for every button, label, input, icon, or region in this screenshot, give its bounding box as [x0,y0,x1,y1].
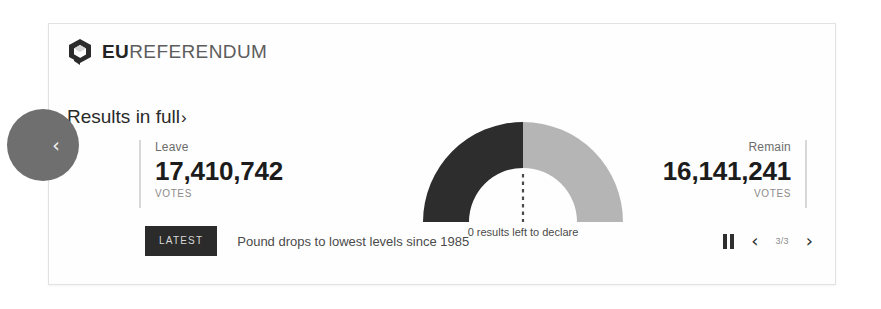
playback-controls: ‹ 3/3 › [723,232,813,250]
remain-label: Remain [663,140,791,155]
remain-stat-block: Remain 16,141,241 VOTES [663,140,807,208]
remain-votes-unit: VOTES [663,187,791,201]
pause-icon[interactable] [723,234,734,249]
chevron-right-icon: › [181,108,187,128]
gauge-segment-leave [423,122,523,222]
half-donut-chart [417,122,629,226]
leave-votes-unit: VOTES [155,187,283,201]
next-story-icon[interactable]: › [806,232,813,250]
footer-ticker-bar: LATEST Pound drops to lowest levels sinc… [49,224,835,258]
brand-title-eu: EU [102,41,129,62]
chevron-left-icon: ‹ [52,134,60,156]
latest-badge[interactable]: LATEST [145,226,217,256]
ticker-headline[interactable]: Pound drops to lowest levels since 1985 [237,234,469,249]
prev-story-icon[interactable]: ‹ [751,232,758,250]
leave-votes: 17,410,742 [155,155,283,187]
slide-counter: 3/3 [775,236,788,246]
brand-title-referendum: REFERENDUM [129,41,267,62]
brand-title: EUREFERENDUM [102,41,267,63]
leave-label: Leave [155,140,283,155]
prev-slide-button[interactable]: ‹ [7,109,79,181]
gauge-segment-remain [523,122,623,222]
results-in-full-label: Results in full [67,106,180,128]
pause-bar-left [723,234,727,249]
remain-votes: 16,141,241 [663,155,791,187]
eu-referendum-cube-logo-icon [67,38,93,66]
widget-header: EUREFERENDUM [49,24,835,80]
eu-referendum-widget-card: EUREFERENDUM Results in full › ‹ Leave 1… [48,23,836,285]
leave-stat-block: Leave 17,410,742 VOTES [139,140,283,208]
results-in-full-link[interactable]: Results in full › [67,106,187,128]
pause-bar-right [730,234,734,249]
